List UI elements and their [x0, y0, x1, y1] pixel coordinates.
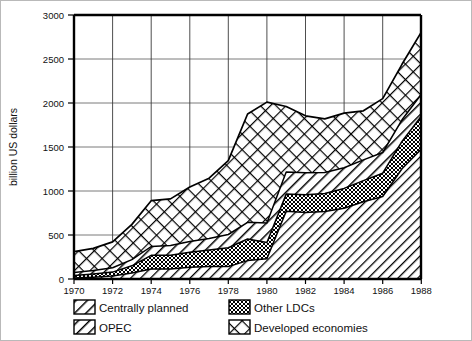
legend-item-developed-economies: Developed economies	[229, 320, 368, 334]
legend-item-centrally-planned: Centrally planned	[74, 300, 189, 314]
legend-swatch-opec	[74, 320, 95, 334]
x-tick-label: 1984	[334, 285, 355, 296]
stacked-area-chart: 0 500 1000 1500 2000 2500 3000 billion U…	[1, 1, 472, 341]
legend-swatch-centrally-planned	[74, 300, 95, 314]
x-tick-label: 1970	[63, 285, 84, 296]
y-tick-label: 1000	[43, 186, 64, 197]
legend-swatch-other-ldcs	[229, 300, 250, 314]
y-tick-label: 0	[59, 274, 64, 285]
x-axis-tick-labels: 1970 1972 1974 1976 1978 1980 1982 1984 …	[63, 285, 431, 296]
y-axis-title: billion US dollars	[7, 108, 19, 186]
x-tick-label: 1974	[141, 285, 162, 296]
y-tick-label: 1500	[43, 142, 64, 153]
chart-legend: Centrally planned OPEC Other LDCs Develo…	[74, 300, 368, 334]
x-tick-label: 1982	[295, 285, 316, 296]
legend-label-other-ldcs: Other LDCs	[254, 302, 315, 314]
legend-label-opec: OPEC	[99, 322, 132, 334]
y-axis-tick-labels: 0 500 1000 1500 2000 2500 3000	[43, 10, 64, 285]
y-tick-label: 500	[48, 230, 64, 241]
x-tick-label: 1972	[102, 285, 123, 296]
x-tick-label: 1988	[411, 285, 432, 296]
y-tick-label: 2000	[43, 98, 64, 109]
x-tick-label: 1978	[218, 285, 239, 296]
y-tick-label: 3000	[43, 10, 64, 21]
legend-swatch-developed-economies	[229, 320, 250, 334]
legend-item-opec: OPEC	[74, 320, 132, 334]
x-tick-label: 1986	[372, 285, 393, 296]
legend-item-other-ldcs: Other LDCs	[229, 300, 315, 314]
chart-figure: 0 500 1000 1500 2000 2500 3000 billion U…	[0, 0, 472, 341]
legend-label-centrally-planned: Centrally planned	[99, 302, 189, 314]
legend-label-developed-economies: Developed economies	[254, 322, 368, 334]
x-tick-label: 1980	[256, 285, 277, 296]
x-tick-label: 1976	[179, 285, 200, 296]
y-tick-label: 2500	[43, 54, 64, 65]
